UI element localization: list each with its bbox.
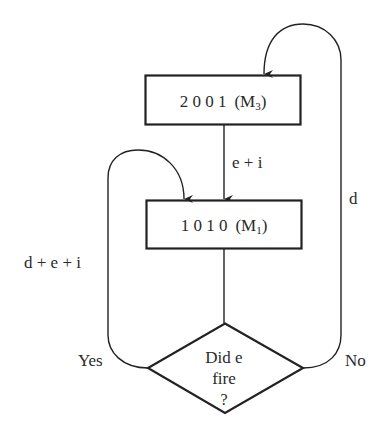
state-box-m3-label: 2 0 0 1(M3) <box>180 92 267 112</box>
state-box-m1-label: 1 0 1 0(M1) <box>181 216 268 236</box>
decision-diamond: Did e fire ? <box>148 324 303 414</box>
state-box-m3: 2 0 0 1(M3) <box>146 76 301 125</box>
edge-label-d: d <box>349 189 358 208</box>
state-box-m1: 1 0 1 0(M1) <box>147 201 302 249</box>
edge-yes-loop <box>108 150 184 368</box>
decision-text-line2: fire <box>212 369 236 388</box>
decision-text-line3: ? <box>220 391 227 408</box>
decision-text-line1: Did e <box>205 348 242 367</box>
edge-label-e-plus-i: e + i <box>232 153 263 172</box>
branch-label-no: No <box>345 351 366 370</box>
edge-label-d-plus-e-plus-i: d + e + i <box>24 253 81 272</box>
flowchart-diagram: 2 0 0 1(M3) e + i 1 0 1 0(M1) Did e fire… <box>0 0 382 443</box>
branch-label-yes: Yes <box>78 351 103 370</box>
